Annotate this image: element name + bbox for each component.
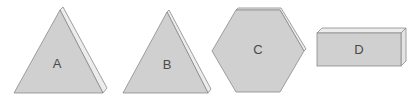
shape-d: D <box>317 28 406 66</box>
shape-b-front-face <box>123 12 208 93</box>
shapes-figure: A B C D <box>0 0 418 99</box>
shape-b: B <box>123 10 211 93</box>
shape-b-label: B <box>163 57 172 72</box>
shape-a: A <box>14 7 107 93</box>
shape-c: C <box>212 8 306 92</box>
shape-a-label: A <box>53 56 62 71</box>
shape-d-right-face <box>401 28 406 66</box>
shape-c-label: C <box>253 42 262 57</box>
shape-d-label: D <box>354 42 363 57</box>
shape-d-top-face <box>317 28 406 33</box>
shape-a-front-face <box>14 10 103 93</box>
